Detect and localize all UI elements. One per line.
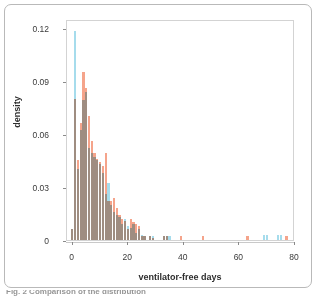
histogram-bar	[168, 236, 170, 240]
histogram-bar	[152, 238, 154, 240]
figure-caption-text: Fig. 2 Comparison of the distribution	[6, 290, 146, 296]
y-tick-label: 0	[9, 236, 49, 246]
figure-caption: Fig. 2 Comparison of the distribution	[0, 290, 318, 298]
x-tick-label: 40	[178, 252, 187, 262]
histogram-chart: density 00.030.060.090.12 020406080 vent…	[0, 0, 318, 298]
x-tick-label: 0	[69, 252, 74, 262]
y-axis-label: density	[12, 96, 22, 128]
x-axis-line	[66, 242, 294, 243]
x-tick-mark	[127, 242, 128, 245]
plot-panel	[66, 20, 294, 241]
y-tick-label: 0.03	[9, 183, 49, 193]
histogram-bar	[166, 236, 168, 240]
histogram-bar	[266, 235, 268, 240]
x-tick-mark	[72, 242, 73, 245]
y-tick-label: 0.09	[9, 77, 49, 87]
histogram-bar	[246, 236, 248, 240]
x-tick-mark	[294, 242, 295, 245]
x-tick-label: 60	[234, 252, 243, 262]
x-tick-mark	[183, 242, 184, 245]
histogram-bar	[143, 236, 145, 240]
histogram-bar	[202, 236, 204, 240]
x-tick-label: 20	[122, 252, 131, 262]
x-tick-label: 80	[289, 252, 298, 262]
histogram-bar	[180, 236, 182, 240]
histogram-bar	[280, 235, 282, 240]
x-axis-label: ventilator-free days	[138, 272, 221, 282]
y-tick-label: 0.06	[9, 130, 49, 140]
y-tick-label: 0.12	[9, 24, 49, 34]
x-tick-mark	[238, 242, 239, 245]
histogram-bar	[285, 236, 287, 240]
